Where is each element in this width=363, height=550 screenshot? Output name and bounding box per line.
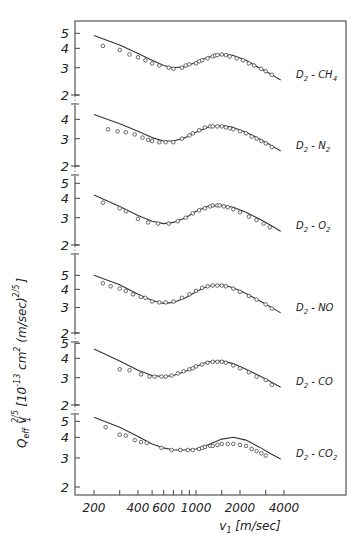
- y-tick-label: 2: [61, 159, 69, 174]
- experiment-point: [216, 284, 220, 288]
- experiment-point: [118, 368, 122, 372]
- experiment-point: [146, 221, 150, 225]
- experiment-point: [228, 55, 232, 59]
- experiment-point: [262, 222, 266, 226]
- experiment-point: [218, 204, 222, 208]
- experiment-point: [139, 295, 143, 299]
- experiment-point: [176, 219, 180, 223]
- panel-3: 2345D2 - NO: [61, 268, 334, 341]
- experiment-point: [146, 138, 150, 142]
- experiment-point: [220, 442, 224, 446]
- experiment-point: [238, 211, 242, 215]
- experiment-point: [247, 371, 251, 375]
- experiment-point: [211, 284, 215, 288]
- x-axis: 200400600100020004000: [83, 490, 300, 515]
- plot-frame: [75, 21, 346, 495]
- experiment-point: [264, 378, 268, 382]
- panel-label: D2 - NO: [296, 302, 334, 316]
- experiment-point: [167, 66, 171, 70]
- panel-2: 2345D2 - O2: [61, 176, 331, 253]
- y-tick-label: 5: [61, 414, 69, 429]
- experiment-point: [255, 218, 259, 222]
- experiment-point: [194, 289, 198, 293]
- x-axis-title-unit: [m/sec]: [232, 519, 281, 533]
- experiment-point: [255, 375, 259, 379]
- panel-1: 234D2 - N2: [61, 112, 331, 174]
- experiment-point: [197, 129, 201, 133]
- experiment-point: [260, 452, 264, 456]
- experiment-point: [156, 222, 160, 226]
- experiment-point: [244, 444, 248, 448]
- experiment-point: [216, 360, 220, 364]
- experiment-point: [224, 361, 228, 365]
- experiment-point: [247, 215, 251, 219]
- y-axis-title-close: ]: [15, 278, 29, 284]
- experiment-point: [101, 201, 105, 205]
- y-tick-label: 4: [61, 351, 69, 366]
- experiment-point: [206, 285, 210, 289]
- experiment-point: [211, 360, 215, 364]
- y-tick-label: 2: [61, 398, 69, 413]
- x-axis-title: v1 [m/sec]: [219, 519, 281, 535]
- experiment-point: [247, 294, 251, 298]
- experiment-point: [158, 140, 162, 144]
- experiment-point: [141, 136, 145, 140]
- experiment-point: [220, 360, 224, 364]
- experiment-point: [160, 375, 164, 379]
- experiment-point: [118, 207, 122, 211]
- experiment-point: [179, 448, 183, 452]
- experiment-point: [104, 426, 108, 430]
- experiment-point: [200, 286, 204, 290]
- experiment-point: [172, 67, 176, 71]
- y-tick-label: 4: [61, 282, 69, 297]
- y-tick-label: 5: [61, 176, 69, 191]
- y-tick-label: 2: [61, 88, 69, 103]
- experiment-point: [158, 301, 162, 305]
- theory-curve: [94, 349, 281, 387]
- experiment-point: [194, 365, 198, 369]
- experiment-point: [224, 126, 228, 130]
- experiment-point: [232, 364, 236, 368]
- x-tick-label: 200: [83, 501, 106, 515]
- y-tick-label: 2: [61, 480, 69, 495]
- panel-label: D2 - CO2: [296, 448, 338, 462]
- experiment-point: [203, 126, 207, 130]
- experiment-point: [118, 48, 122, 52]
- experiment-point: [101, 44, 105, 48]
- experiment-point: [184, 64, 188, 68]
- experiment-point: [150, 139, 154, 143]
- panel-label: D2 - CH4: [296, 69, 337, 83]
- panel-4: 2345D2 - CO: [61, 336, 333, 413]
- experiment-point: [232, 287, 236, 291]
- experiment-point: [176, 372, 180, 376]
- experiment-point: [124, 210, 128, 214]
- y-tick-label: 4: [61, 430, 69, 445]
- experiment-point: [191, 212, 195, 216]
- experiment-point: [188, 293, 192, 297]
- panel-0: 2345D2 - CH4: [61, 26, 337, 103]
- y-axis-title-bracket: [10: [15, 386, 29, 406]
- experiment-point: [180, 66, 184, 70]
- theory-curve: [94, 35, 281, 80]
- panel-5: 2345D2 - CO2: [61, 414, 338, 495]
- chart-canvas: 2345D2 - CH4234D2 - N22345D2 - O22345D2 …: [0, 0, 363, 550]
- experiment-point: [172, 300, 176, 304]
- experiment-point: [109, 285, 113, 289]
- experiment-point: [144, 59, 148, 63]
- x-tick-label: 600: [152, 501, 175, 515]
- experiment-point: [220, 53, 224, 57]
- y-axis-title-eff: eff: [22, 427, 31, 439]
- experiment-point: [232, 128, 236, 132]
- experiment-point: [118, 287, 122, 291]
- y-tick-label: 5: [61, 26, 69, 41]
- y-tick-label: 5: [61, 336, 69, 351]
- y-axis-title-v-sup: 2/5: [11, 410, 20, 423]
- y-tick-label: 3: [61, 132, 69, 147]
- experiment-point: [235, 57, 239, 61]
- y-tick-label: 4: [61, 41, 69, 56]
- experiment-point: [224, 53, 228, 57]
- experiment-point: [226, 442, 230, 446]
- experiment-point: [128, 369, 132, 373]
- y-axis-title: Qeffv2/51[10-13 cm2 (m/sec)2/5]: [11, 278, 32, 449]
- y-axis-title-exp: -13: [13, 374, 22, 387]
